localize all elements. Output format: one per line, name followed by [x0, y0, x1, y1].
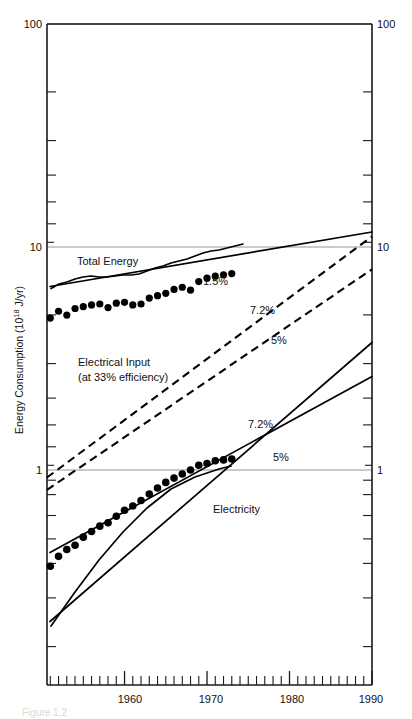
data-point: [129, 502, 137, 510]
label-electrical-input-rate-low: 5%: [271, 334, 287, 346]
label-total-energy: Total Energy: [77, 255, 139, 267]
data-point: [178, 470, 186, 478]
data-point: [162, 290, 169, 297]
data-point: [195, 461, 203, 469]
svg-text:Energy Consumption (1018 J/yr): Energy Consumption (1018 J/yr): [12, 286, 26, 434]
label-electricity-rate-low: 5%: [273, 451, 289, 463]
data-point: [220, 456, 228, 464]
x-tick-1960: 1960: [118, 693, 142, 705]
y-axis-title: Energy Consumption (1018 J/yr): [12, 286, 26, 434]
data-point: [211, 457, 219, 465]
data-point: [170, 286, 177, 293]
y-axis-title-exponent: 18: [12, 309, 21, 317]
data-point: [154, 484, 162, 492]
data-point: [129, 301, 136, 308]
y-tick-left-100: 100: [24, 18, 42, 30]
figure-container: 100 10 1 100 10 1 1960 1970 1980 1990 En…: [0, 0, 412, 719]
y-tick-right-1: 1: [377, 464, 383, 476]
data-point: [88, 528, 96, 536]
data-point: [137, 497, 145, 505]
data-point: [121, 299, 128, 306]
x-tick-1980: 1980: [280, 693, 304, 705]
y-axis-title-main: Energy Consumption (10: [13, 318, 25, 434]
data-point: [63, 312, 70, 319]
plot-frame: [47, 24, 372, 685]
label-electrical-input-sub: (at 33% efficiency): [78, 371, 168, 383]
data-point: [113, 300, 120, 307]
label-total-energy-rate: 1.5%: [203, 275, 228, 287]
label-electrical-input-rate-high: 7.2%: [250, 304, 275, 316]
data-point: [96, 522, 104, 530]
label-electricity-rate-high: 7.2%: [248, 418, 273, 430]
data-point: [96, 300, 103, 307]
data-point: [146, 295, 153, 302]
data-point: [121, 506, 129, 514]
y-axis-ticks-right: [363, 92, 372, 647]
data-point: [112, 513, 120, 521]
x-axis-ticks: [50, 671, 372, 685]
data-point: [170, 474, 178, 482]
data-point: [71, 305, 78, 312]
data-point: [55, 308, 62, 315]
data-point: [179, 284, 186, 291]
data-point: [104, 304, 111, 311]
y-tick-left-1: 1: [36, 464, 42, 476]
data-point: [63, 546, 71, 554]
figure-caption: Figure 1.2: [22, 707, 67, 718]
data-point: [187, 466, 195, 474]
data-point: [137, 300, 144, 307]
data-point: [47, 314, 54, 321]
data-point: [104, 519, 112, 527]
data-point: [203, 460, 211, 468]
label-electricity: Electricity: [213, 503, 261, 515]
label-electrical-input: Electrical Input: [78, 356, 150, 368]
data-point: [228, 455, 236, 463]
data-point: [145, 490, 153, 498]
y-tick-left-10: 10: [30, 241, 42, 253]
y-axis-title-tail: J/yr): [13, 286, 25, 309]
data-point: [71, 541, 79, 549]
x-tick-1990: 1990: [359, 693, 383, 705]
data-point: [195, 278, 202, 285]
data-point: [79, 533, 87, 541]
data-point: [154, 292, 161, 299]
data-point: [88, 301, 95, 308]
data-point: [228, 270, 235, 277]
x-tick-1970: 1970: [199, 693, 223, 705]
series-electricity-projection-7-2: [50, 343, 372, 622]
data-point: [47, 562, 55, 570]
data-point: [55, 553, 63, 561]
data-point: [187, 287, 194, 294]
y-tick-right-10: 10: [377, 241, 389, 253]
data-point: [162, 479, 170, 487]
data-point: [80, 303, 87, 310]
energy-consumption-chart: 100 10 1 100 10 1 1960 1970 1980 1990 En…: [0, 0, 412, 719]
y-tick-right-100: 100: [377, 18, 395, 30]
